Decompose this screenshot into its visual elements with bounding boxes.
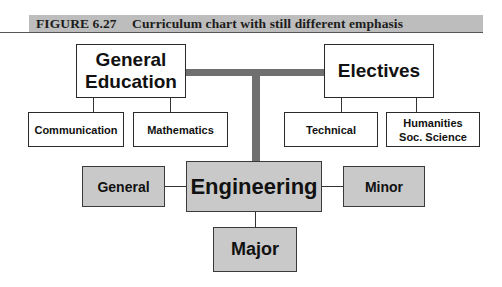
node-minor-label: Minor <box>365 179 403 195</box>
node-communication-label: Communication <box>34 124 117 136</box>
connector-gened-mathematics <box>170 98 171 112</box>
node-general-label: General <box>97 179 149 195</box>
figure-caption: FIGURE 6.27 Curriculum chart with still … <box>36 15 403 32</box>
node-general-education: General Education <box>76 44 186 98</box>
connector-electives-technical <box>341 98 342 112</box>
connector-engineering-major <box>255 212 256 227</box>
connector-electives-humanities <box>416 98 417 112</box>
figure-title: Curriculum chart with still different em… <box>132 16 403 31</box>
node-communication: Communication <box>28 112 124 147</box>
emphasis-connector-vertical <box>252 69 260 161</box>
connector-engineering-minor <box>322 186 343 187</box>
node-technical-label: Technical <box>306 124 356 136</box>
node-humanities-line2: Soc. Science <box>399 130 467 144</box>
node-mathematics: Mathematics <box>133 112 228 147</box>
node-general-education-line1: General <box>96 49 167 71</box>
node-electives-label: Electives <box>338 60 420 82</box>
node-electives: Electives <box>324 44 434 98</box>
caption-divider <box>0 32 483 33</box>
node-minor: Minor <box>343 166 425 207</box>
node-humanities-soc-science: Humanities Soc. Science <box>386 112 480 147</box>
node-general: General <box>82 166 165 207</box>
figure-number: FIGURE 6.27 <box>36 16 117 31</box>
node-technical: Technical <box>284 112 378 147</box>
node-major: Major <box>213 227 297 272</box>
node-major-label: Major <box>231 239 279 260</box>
node-engineering: Engineering <box>186 161 322 212</box>
node-general-education-line2: Education <box>85 71 177 93</box>
node-mathematics-label: Mathematics <box>147 124 214 136</box>
node-humanities-line1: Humanities <box>403 116 462 130</box>
node-engineering-label: Engineering <box>190 174 317 200</box>
connector-gened-communication <box>93 98 94 112</box>
connector-engineering-general <box>165 186 186 187</box>
